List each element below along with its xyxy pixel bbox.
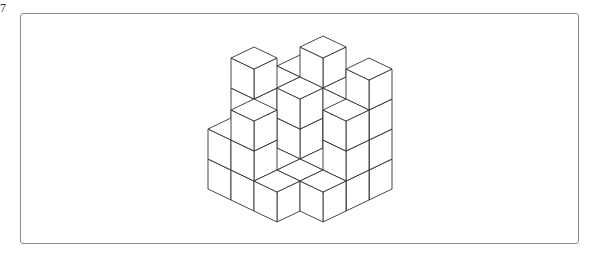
cubes-group	[208, 36, 392, 222]
cube-stack-figure	[0, 0, 593, 260]
